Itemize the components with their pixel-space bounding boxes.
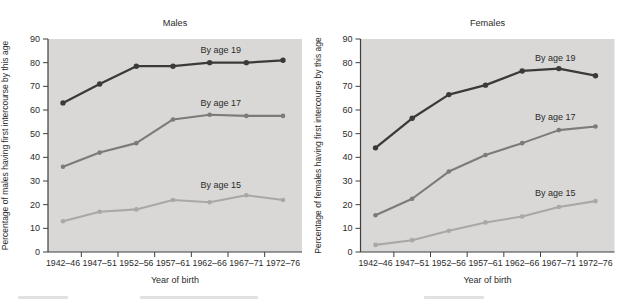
- x-axis-title: Year of birth: [463, 275, 511, 285]
- data-point-by-age-17: [244, 114, 249, 119]
- data-point-by-age-15: [281, 198, 286, 203]
- caption-mark: [18, 296, 68, 299]
- data-point-by-age-17: [410, 196, 415, 201]
- males-chart: Males01020304050607080901942–461947–5119…: [0, 0, 312, 304]
- data-point-by-age-19: [170, 64, 175, 69]
- y-tick-label: 10: [342, 223, 352, 233]
- females-chart: Females01020304050607080901942–461947–51…: [312, 0, 625, 304]
- x-tick-label: 1942–46: [358, 258, 392, 268]
- data-point-by-age-15: [520, 214, 525, 219]
- data-point-by-age-19: [446, 92, 451, 97]
- data-point-by-age-17: [520, 141, 525, 146]
- data-point-by-age-15: [97, 209, 102, 214]
- data-point-by-age-19: [207, 60, 212, 65]
- y-tick-label: 80: [342, 58, 352, 68]
- data-point-by-age-17: [447, 169, 452, 174]
- y-tick-label: 70: [30, 81, 40, 91]
- data-point-by-age-15: [483, 220, 488, 225]
- y-tick-label: 80: [30, 58, 40, 68]
- y-tick-label: 60: [30, 105, 40, 115]
- data-point-by-age-17: [97, 150, 102, 155]
- data-point-by-age-17: [134, 141, 139, 146]
- x-tick-label: 1957–61: [156, 258, 190, 268]
- x-tick-label: 1957–61: [468, 258, 502, 268]
- data-point-by-age-19: [134, 64, 139, 69]
- x-tick-label: 1947–51: [83, 258, 117, 268]
- y-tick-label: 40: [342, 152, 352, 162]
- data-point-by-age-17: [557, 128, 562, 133]
- data-point-by-age-19: [373, 145, 378, 150]
- caption-mark: [424, 296, 484, 299]
- y-tick-label: 0: [35, 247, 40, 257]
- males-chart-svg: Males01020304050607080901942–461947–5119…: [0, 0, 312, 304]
- y-tick-label: 30: [30, 176, 40, 186]
- y-tick-label: 90: [30, 34, 40, 44]
- series-annotation-by-age-19: By age 19: [200, 45, 241, 55]
- x-tick-label: 1972–76: [266, 258, 300, 268]
- cropped-caption-fragment: [0, 296, 625, 301]
- y-tick-label: 50: [342, 129, 352, 139]
- x-tick-label: 1952–56: [432, 258, 466, 268]
- data-point-by-age-19: [483, 82, 488, 87]
- series-annotation-by-age-17: By age 17: [200, 98, 241, 108]
- y-tick-label: 70: [342, 81, 352, 91]
- x-tick-label: 1952–56: [119, 258, 153, 268]
- data-point-by-age-15: [593, 199, 598, 204]
- y-tick-label: 10: [30, 223, 40, 233]
- data-point-by-age-17: [373, 213, 378, 218]
- data-point-by-age-15: [447, 228, 452, 233]
- x-tick-label: 1962–66: [505, 258, 539, 268]
- data-point-by-age-17: [281, 114, 286, 119]
- data-point-by-age-17: [483, 153, 488, 158]
- data-point-by-age-17: [207, 112, 212, 117]
- plot-area: [48, 39, 302, 252]
- data-point-by-age-19: [409, 116, 414, 121]
- data-point-by-age-19: [97, 81, 102, 86]
- data-point-by-age-15: [557, 205, 562, 210]
- caption-mark: [140, 296, 258, 299]
- series-annotation-by-age-17: By age 17: [535, 112, 576, 122]
- series-annotation-by-age-15: By age 15: [535, 188, 576, 198]
- y-tick-label: 50: [30, 129, 40, 139]
- x-tick-label: 1947–51: [395, 258, 429, 268]
- data-point-by-age-15: [410, 238, 415, 243]
- data-point-by-age-15: [244, 193, 249, 198]
- y-axis-title: Percentage of females having first inter…: [313, 37, 323, 254]
- y-tick-label: 20: [342, 200, 352, 210]
- y-tick-label: 90: [342, 34, 352, 44]
- x-axis-title: Year of birth: [151, 275, 199, 285]
- y-axis-title: Percentage of males having first interco…: [0, 41, 10, 251]
- data-point-by-age-15: [373, 243, 378, 248]
- dual-line-chart-figure: Males01020304050607080901942–461947–5119…: [0, 0, 625, 304]
- data-point-by-age-19: [280, 58, 285, 63]
- series-annotation-by-age-19: By age 19: [535, 53, 576, 63]
- data-point-by-age-19: [244, 60, 249, 65]
- data-point-by-age-15: [134, 207, 139, 212]
- data-point-by-age-15: [207, 200, 212, 205]
- y-tick-label: 60: [342, 105, 352, 115]
- x-tick-label: 1967–71: [542, 258, 576, 268]
- y-tick-label: 40: [30, 152, 40, 162]
- data-point-by-age-15: [61, 219, 66, 224]
- females-chart-svg: Females01020304050607080901942–461947–51…: [312, 0, 625, 304]
- data-point-by-age-19: [556, 66, 561, 71]
- data-point-by-age-17: [61, 165, 66, 170]
- data-point-by-age-15: [171, 198, 176, 203]
- x-tick-label: 1942–46: [46, 258, 80, 268]
- data-point-by-age-19: [519, 68, 524, 73]
- y-tick-label: 0: [347, 247, 352, 257]
- y-tick-label: 20: [30, 200, 40, 210]
- x-tick-label: 1962–66: [193, 258, 227, 268]
- series-annotation-by-age-15: By age 15: [200, 180, 241, 190]
- y-tick-label: 30: [342, 176, 352, 186]
- chart-title: Females: [470, 18, 506, 28]
- x-tick-label: 1972–76: [578, 258, 612, 268]
- chart-title: Males: [163, 18, 188, 28]
- data-point-by-age-17: [171, 117, 176, 122]
- x-tick-label: 1967–71: [229, 258, 263, 268]
- data-point-by-age-19: [593, 73, 598, 78]
- data-point-by-age-17: [593, 124, 598, 129]
- data-point-by-age-19: [60, 100, 65, 105]
